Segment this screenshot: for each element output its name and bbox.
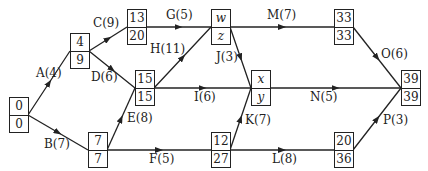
event-node: 1227 bbox=[211, 132, 231, 168]
edge-label: E(8) bbox=[127, 111, 153, 125]
event-node: 00 bbox=[9, 97, 29, 133]
latest-time: 27 bbox=[212, 151, 230, 168]
earliest-time: 13 bbox=[128, 10, 146, 28]
latest-time: z bbox=[212, 28, 230, 45]
edge-label: L(8) bbox=[272, 152, 297, 166]
earliest-time: 0 bbox=[10, 98, 28, 116]
edge-label: M(7) bbox=[267, 8, 296, 22]
latest-time: y bbox=[252, 89, 270, 106]
latest-time: 33 bbox=[335, 28, 353, 45]
event-node: 3333 bbox=[334, 9, 354, 45]
latest-time: 39 bbox=[402, 89, 420, 106]
event-node: 1515 bbox=[135, 70, 155, 106]
latest-time: 15 bbox=[136, 89, 154, 106]
latest-time: 7 bbox=[89, 151, 107, 168]
edge-label: P(3) bbox=[383, 113, 408, 127]
earliest-time: 4 bbox=[71, 34, 89, 52]
network-diagram: 00497713201515wzxy1227333320363939 A(4)B… bbox=[0, 0, 428, 171]
event-node: wz bbox=[211, 9, 231, 45]
edge-label: I(6) bbox=[194, 90, 216, 104]
edge-label: F(5) bbox=[149, 152, 174, 166]
edge-label: C(9) bbox=[93, 16, 119, 30]
earliest-time: 15 bbox=[136, 71, 154, 89]
edge-label: J(3) bbox=[216, 50, 238, 64]
edge-label: A(4) bbox=[36, 66, 62, 80]
earliest-time: 39 bbox=[402, 71, 420, 89]
edge-label: N(5) bbox=[310, 90, 338, 104]
event-node: 49 bbox=[70, 33, 90, 69]
earliest-time: x bbox=[252, 71, 270, 89]
edge-label: B(7) bbox=[44, 137, 70, 151]
event-node: 1320 bbox=[127, 9, 147, 45]
earliest-time: 20 bbox=[335, 133, 353, 151]
earliest-time: 12 bbox=[212, 133, 230, 151]
edge-arrow bbox=[89, 27, 127, 51]
event-node: 2036 bbox=[334, 132, 354, 168]
edge-label: O(6) bbox=[381, 47, 408, 61]
event-node: 77 bbox=[88, 132, 108, 168]
latest-time: 20 bbox=[128, 28, 146, 45]
edge-label: H(11) bbox=[150, 42, 185, 56]
earliest-time: 7 bbox=[89, 133, 107, 151]
edge-label: G(5) bbox=[166, 8, 193, 22]
earliest-time: 33 bbox=[335, 10, 353, 28]
event-node: 3939 bbox=[401, 70, 421, 106]
edge-label: D(6) bbox=[91, 70, 118, 84]
latest-time: 36 bbox=[335, 151, 353, 168]
latest-time: 0 bbox=[10, 116, 28, 133]
earliest-time: w bbox=[212, 10, 230, 28]
edge-label: K(7) bbox=[245, 113, 271, 127]
event-node: xy bbox=[251, 70, 271, 106]
edge-arrow bbox=[154, 27, 211, 88]
latest-time: 9 bbox=[71, 52, 89, 69]
edge-arrow bbox=[28, 51, 70, 115]
